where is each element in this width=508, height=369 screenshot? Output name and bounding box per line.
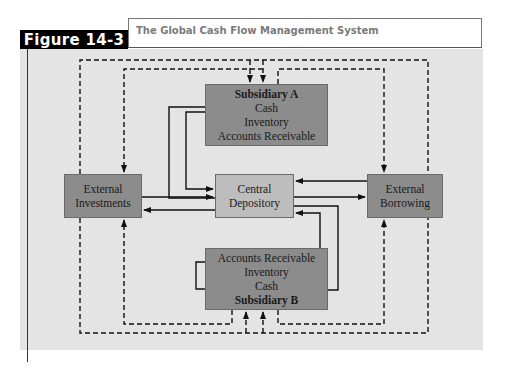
subsidiary-b-inventory: Inventory: [206, 265, 327, 279]
subsidiary-a-receivables: Accounts Receivable: [206, 129, 327, 143]
external-investments-node: External Investments: [64, 174, 142, 218]
subsidiary-a-node: Subsidiary A Cash Inventory Accounts Rec…: [205, 84, 328, 146]
central-depository-node: Central Depository: [215, 174, 294, 218]
subsidiary-a-name: Subsidiary A: [206, 87, 327, 101]
external-borrowing-line2: Borrowing: [368, 196, 442, 210]
external-borrowing-line1: External: [368, 182, 442, 196]
subsidiary-b-cash: Cash: [206, 279, 327, 293]
subsidiary-a-inventory: Inventory: [206, 115, 327, 129]
central-depository-line1: Central: [216, 182, 293, 196]
subsidiary-b-receivables: Accounts Receivable: [206, 251, 327, 265]
external-borrowing-node: External Borrowing: [367, 174, 443, 218]
external-investments-line1: External: [65, 182, 141, 196]
subsidiary-b-name: Subsidiary B: [206, 293, 327, 307]
external-investments-line2: Investments: [65, 196, 141, 210]
subsidiary-a-cash: Cash: [206, 101, 327, 115]
central-depository-line2: Depository: [216, 196, 293, 210]
subsidiary-b-node: Accounts Receivable Inventory Cash Subsi…: [205, 248, 328, 310]
